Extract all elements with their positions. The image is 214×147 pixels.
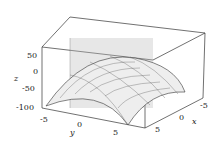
paraboloid-mesh [46, 56, 185, 125]
x-axis-ticks: -5 0 5 x [155, 101, 208, 134]
z-axis-ticks: 50 0 -50 -100 z [13, 51, 38, 112]
svg-text:-5: -5 [40, 115, 48, 124]
svg-text:0: 0 [33, 67, 38, 76]
svg-text:50: 50 [27, 51, 37, 60]
svg-text:5: 5 [113, 128, 118, 137]
svg-text:-50: -50 [22, 84, 35, 93]
svg-text:-100: -100 [16, 103, 34, 112]
surface-plot: 50 0 -50 -100 z -5 0 5 y -5 0 5 x [0, 0, 214, 147]
svg-text:0: 0 [179, 113, 184, 122]
svg-text:z: z [13, 74, 19, 83]
plot-svg: 50 0 -50 -100 z -5 0 5 y -5 0 5 x [0, 0, 214, 147]
svg-text:0: 0 [77, 120, 82, 129]
svg-text:-5: -5 [200, 101, 208, 110]
svg-text:y: y [69, 128, 75, 137]
y-axis-ticks: -5 0 5 y [40, 115, 118, 137]
svg-text:x: x [192, 117, 197, 126]
svg-text:5: 5 [155, 125, 160, 134]
